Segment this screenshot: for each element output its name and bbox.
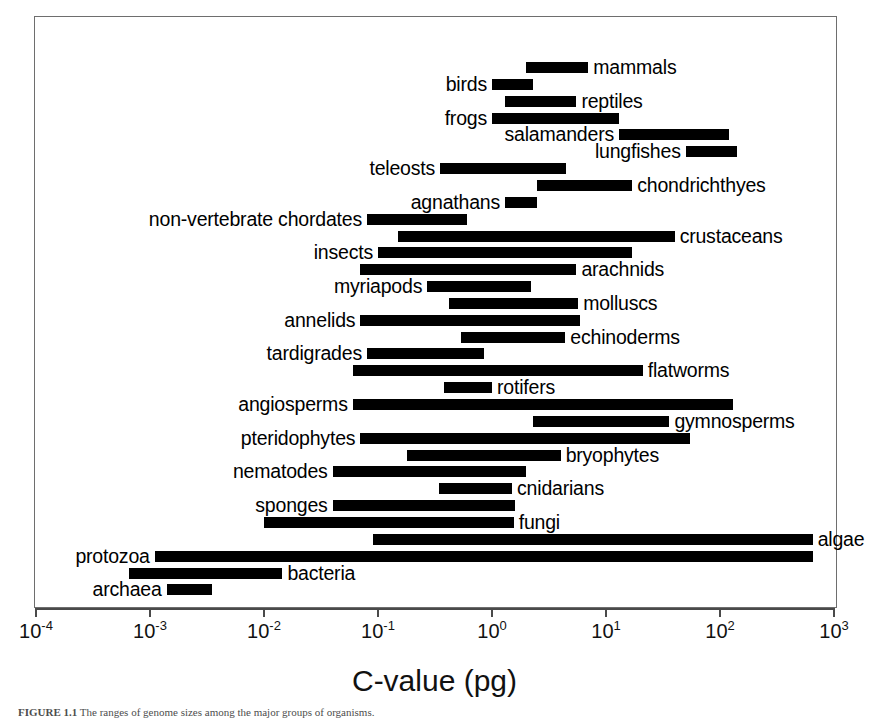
x-tick-label-7: 103: [819, 620, 848, 643]
range-bar: [407, 450, 561, 461]
range-bar: [619, 129, 729, 140]
range-bar: [333, 500, 516, 511]
range-bar: [505, 96, 576, 107]
range-bar: [367, 214, 467, 225]
range-bar: [526, 62, 588, 73]
genome-size-figure: mammalsbirdsreptilesfrogssalamanderslung…: [0, 0, 869, 724]
x-tick-6: [719, 608, 721, 617]
x-tick-label-1: 10-3: [133, 620, 167, 643]
range-bar: [461, 332, 566, 343]
x-tick-3: [377, 608, 379, 617]
x-tick-label-4: 100: [477, 620, 506, 643]
x-tick-label-6: 102: [705, 620, 734, 643]
x-tick-label-0: 10-4: [19, 620, 53, 643]
x-axis-title: C-value (pg): [0, 664, 869, 698]
range-bar: [353, 365, 643, 376]
bar-row: archaea: [0, 580, 869, 602]
caption-prefix: FIGURE 1.1: [18, 706, 77, 718]
x-tick-4: [491, 608, 493, 617]
range-bar: [360, 315, 580, 326]
range-bar: [427, 281, 531, 292]
range-bar: [492, 79, 533, 90]
bars-layer: mammalsbirdsreptilesfrogssalamanderslung…: [0, 0, 869, 608]
range-bar: [440, 163, 566, 174]
figure-caption: FIGURE 1.1 The ranges of genome sizes am…: [18, 706, 858, 724]
range-bar: [360, 264, 576, 275]
range-bar: [378, 247, 632, 258]
range-bar: [533, 416, 669, 427]
x-tick-7: [833, 608, 835, 617]
range-bar: [167, 584, 212, 595]
x-tick-2: [263, 608, 265, 617]
x-tick-1: [149, 608, 151, 617]
range-bar: [367, 348, 484, 359]
range-bar: [449, 298, 578, 309]
x-tick-5: [605, 608, 607, 617]
range-bar: [505, 197, 537, 208]
range-bar: [398, 231, 675, 242]
range-bar: [353, 399, 733, 410]
bar-label: archaea: [93, 578, 162, 600]
range-bar: [333, 466, 527, 477]
x-axis-line: [36, 608, 834, 610]
x-tick-0: [35, 608, 37, 617]
caption-text: The ranges of genome sizes among the maj…: [77, 706, 374, 718]
range-bar: [373, 534, 813, 545]
range-bar: [686, 146, 737, 157]
x-tick-label-2: 10-2: [247, 620, 281, 643]
x-tick-label-3: 10-1: [361, 620, 395, 643]
range-bar: [264, 517, 514, 528]
range-bar: [360, 433, 690, 444]
range-bar: [129, 568, 283, 579]
x-axis: 10-410-310-210-1100101102103: [0, 608, 869, 668]
range-bar: [155, 551, 813, 562]
range-bar: [444, 382, 492, 393]
range-bar: [439, 483, 512, 494]
range-bar: [492, 113, 619, 124]
range-bar: [537, 180, 632, 191]
x-tick-label-5: 101: [591, 620, 620, 643]
